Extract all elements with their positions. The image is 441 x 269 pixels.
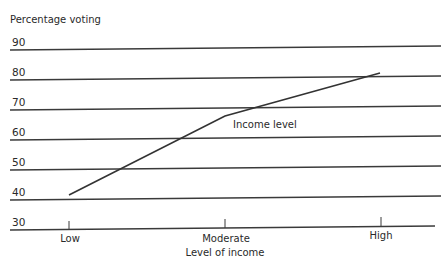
gridline-50 — [10, 166, 441, 170]
y-tick-80: 80 — [12, 66, 25, 78]
y-tick-60: 60 — [12, 126, 25, 138]
gridline-80 — [10, 76, 441, 80]
y-tick-90: 90 — [12, 36, 25, 48]
x-axis-title: Level of income — [185, 247, 264, 258]
y-tick-30: 30 — [12, 216, 25, 228]
series-annotation: Income level — [233, 119, 297, 130]
chart-plot-area — [0, 0, 441, 269]
y-tick-50: 50 — [12, 156, 25, 168]
gridline-40 — [10, 196, 441, 200]
gridline-70 — [10, 106, 441, 110]
x-category-low: Low — [60, 233, 80, 244]
x-category-moderate: Moderate — [202, 233, 250, 244]
gridline-90 — [10, 46, 441, 50]
x-category-high: High — [370, 230, 393, 241]
y-tick-70: 70 — [12, 96, 25, 108]
series-line-income-level — [69, 73, 380, 195]
gridline-60 — [10, 136, 441, 140]
y-tick-40: 40 — [12, 186, 25, 198]
